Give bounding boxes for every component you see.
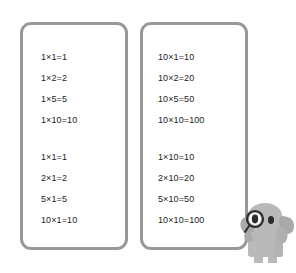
fact-line: 1×10=10 <box>41 110 77 131</box>
fact-line: 10×1=10 <box>41 210 77 231</box>
fact-group-ones-times-table: 1×1=1 1×2=2 1×5=5 1×10=10 <box>41 47 77 131</box>
fact-line: 1×2=2 <box>41 68 77 89</box>
right-card: 10×1=10 10×2=20 10×5=50 10×10=100 1×10=1… <box>140 22 248 250</box>
fact-group-times-one-table: 1×1=1 2×1=2 5×1=5 10×1=10 <box>41 147 77 231</box>
fact-line: 10×10=100 <box>158 210 204 231</box>
fact-line: 1×1=1 <box>41 47 77 68</box>
slide-canvas: 1×1=1 1×2=2 1×5=5 1×10=10 1×1=1 2×1=2 5×… <box>0 0 296 273</box>
fact-line: 10×5=50 <box>158 89 204 110</box>
fact-line: 10×1=10 <box>158 47 204 68</box>
left-card: 1×1=1 1×2=2 1×5=5 1×10=10 1×1=1 2×1=2 5×… <box>20 22 128 250</box>
fact-line: 5×1=5 <box>41 189 77 210</box>
elephant-with-monocle-icon <box>240 196 296 266</box>
fact-line: 10×10=100 <box>158 110 204 131</box>
fact-line: 1×5=5 <box>41 89 77 110</box>
fact-line: 1×1=1 <box>41 147 77 168</box>
fact-group-times-ten-table: 1×10=10 2×10=20 5×10=50 10×10=100 <box>158 147 204 231</box>
fact-line: 5×10=50 <box>158 189 204 210</box>
fact-line: 1×10=10 <box>158 147 204 168</box>
fact-group-tens-times-table: 10×1=10 10×2=20 10×5=50 10×10=100 <box>158 47 204 131</box>
fact-line: 10×2=20 <box>158 68 204 89</box>
fact-line: 2×1=2 <box>41 168 77 189</box>
fact-line: 2×10=20 <box>158 168 204 189</box>
